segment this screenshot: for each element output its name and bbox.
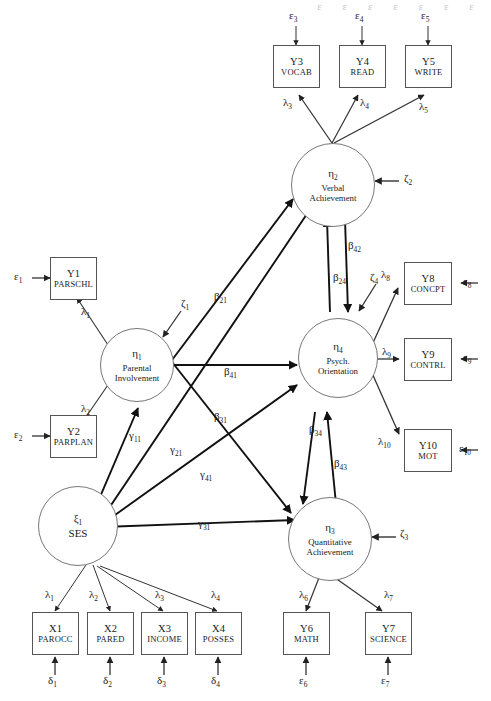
node-y6[interactable]: Y6 MATH <box>283 612 330 655</box>
label-lambda2-x2: λ2 <box>89 589 98 603</box>
label-eps5: ε5 <box>421 10 429 24</box>
node-y3[interactable]: Y3 VOCAB <box>273 45 320 88</box>
arrow-lambda2-x2 <box>93 565 110 611</box>
label-eps10: ε10 <box>459 443 471 457</box>
label-beta34: β34 <box>309 424 322 438</box>
node-y2-id: Y2 <box>67 426 80 438</box>
arrow-zeta4 <box>359 284 376 311</box>
node-y4[interactable]: Y4 READ <box>339 45 386 88</box>
label-beta42: β42 <box>348 240 361 254</box>
node-y7[interactable]: Y7 SCIENCE <box>365 612 412 655</box>
node-eta1[interactable]: η1 Parental Involvement <box>100 328 174 402</box>
label-gamma31: γ31 <box>198 518 210 532</box>
arrow-lambda1-x1 <box>55 562 88 611</box>
label-lambda5: λ5 <box>419 101 428 115</box>
label-lambda7: λ7 <box>384 589 393 603</box>
node-x3-label: INCOME <box>147 635 182 645</box>
label-eps2: ε2 <box>14 429 22 443</box>
node-y2[interactable]: Y2 PARPLAN <box>50 415 97 458</box>
label-eps9: ε9 <box>463 352 471 366</box>
arrow-lambda8-y8 <box>372 288 398 345</box>
node-eta2-id: η2 <box>328 167 337 183</box>
label-zeta4: ζ4 <box>370 272 378 286</box>
node-eta2-line1: Verbal <box>322 183 345 193</box>
node-eta3-id: η3 <box>325 521 334 537</box>
node-y10-label: MOT <box>418 452 438 462</box>
node-y9-label: CONTRL <box>410 361 445 371</box>
node-eta3[interactable]: η3 Quantitative Achievement <box>288 497 372 581</box>
label-zeta1: ζ1 <box>181 298 189 312</box>
node-y4-label: READ <box>351 68 375 78</box>
node-y9[interactable]: Y9 CONTRL <box>404 338 452 381</box>
node-y8[interactable]: Y8 CONCPT <box>404 262 452 305</box>
label-eps4: ε4 <box>355 10 363 24</box>
node-y7-label: SCIENCE <box>370 635 407 645</box>
label-beta21: β21 <box>214 291 227 305</box>
node-x2-id: X2 <box>104 623 117 635</box>
node-eta2-line2: Achievement <box>310 193 357 203</box>
path-beta42 <box>327 219 330 312</box>
node-x1-id: X1 <box>49 623 62 635</box>
node-x2-label: PARED <box>96 635 124 645</box>
label-eps3: ε3 <box>289 10 297 24</box>
label-lambda4: λ4 <box>360 97 369 111</box>
cutoff-header-text: ε ε ε ε ε ε ε <box>0 0 491 11</box>
node-eta4-line1: Psych. <box>326 356 349 366</box>
label-lambda6: λ6 <box>299 589 308 603</box>
node-eta2[interactable]: η2 Verbal Achievement <box>291 143 375 227</box>
node-x2[interactable]: X2 PARED <box>87 612 134 655</box>
node-y5[interactable]: Y5 WRITE <box>405 45 452 88</box>
label-beta31: β31 <box>214 411 227 425</box>
node-x3[interactable]: X3 INCOME <box>141 612 188 655</box>
node-y1-id: Y1 <box>67 268 80 280</box>
node-y5-id: Y5 <box>422 56 435 68</box>
label-zeta3: ζ3 <box>400 528 408 542</box>
node-y1[interactable]: Y1 PARSCHL <box>50 257 97 300</box>
node-eta4-id: η4 <box>333 340 342 356</box>
label-zeta2: ζ2 <box>404 173 412 187</box>
arrow-lambda5 <box>334 95 424 143</box>
path-gamma41 <box>101 385 297 525</box>
node-y10[interactable]: Y10 MOT <box>404 429 452 472</box>
node-y3-label: VOCAB <box>281 68 312 78</box>
node-y6-id: Y6 <box>300 623 313 635</box>
node-y10-id: Y10 <box>419 440 437 452</box>
label-lambda2-y2: λ2 <box>81 403 90 417</box>
path-beta31 <box>172 362 291 513</box>
label-eps6: ε6 <box>299 675 307 689</box>
node-eta3-line1: Quantitative <box>308 537 351 547</box>
node-xi1[interactable]: ξ1 SES <box>38 486 118 566</box>
label-beta41: β41 <box>224 366 237 380</box>
arrow-lambda3 <box>299 95 332 143</box>
path-beta21 <box>172 199 293 360</box>
label-beta43: β43 <box>334 458 347 472</box>
arrow-lambda4 <box>332 95 358 143</box>
node-x1[interactable]: X1 PAROCC <box>32 612 79 655</box>
node-y1-label: PARSCHL <box>54 280 93 290</box>
label-eps1: ε1 <box>14 271 22 285</box>
node-x4[interactable]: X4 POSSES <box>195 612 242 655</box>
label-eps8: ε8 <box>463 276 471 290</box>
node-y6-label: MATH <box>294 635 319 645</box>
label-lambda10: λ10 <box>378 436 391 450</box>
node-y5-label: WRITE <box>415 68 443 78</box>
arrow-lambda3-x3 <box>97 566 163 611</box>
node-eta4-line2: Orientation <box>318 366 358 376</box>
node-eta1-line2: Involvement <box>115 373 159 383</box>
arrow-lambda10-y10 <box>372 373 399 434</box>
label-gamma11: γ11 <box>129 430 141 444</box>
node-x4-label: POSSES <box>203 635 234 645</box>
node-eta1-line1: Parental <box>123 363 152 373</box>
node-y9-id: Y9 <box>422 349 435 361</box>
node-x3-id: X3 <box>158 623 171 635</box>
label-lambda3: λ3 <box>283 97 292 111</box>
arrow-zeta1 <box>163 311 181 337</box>
label-lambda1-x1: λ1 <box>45 589 54 603</box>
node-eta4[interactable]: η4 Psych. Orientation <box>298 318 378 398</box>
label-lambda3-x3: λ3 <box>155 589 164 603</box>
path-beta24 <box>345 219 348 312</box>
node-y8-id: Y8 <box>422 273 435 285</box>
node-xi1-line1: SES <box>69 527 88 540</box>
label-delta3: δ3 <box>157 675 166 689</box>
label-delta4: δ4 <box>211 675 220 689</box>
